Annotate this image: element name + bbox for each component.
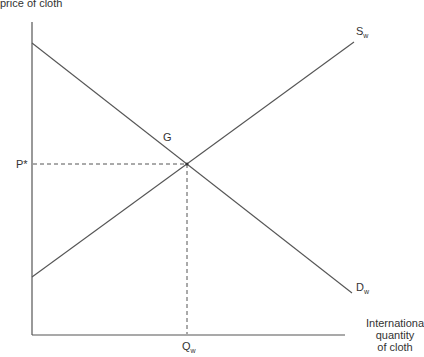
y-axis-label: price of cloth — [0, 0, 62, 9]
price-label: P* — [16, 158, 28, 170]
equilibrium-label: G — [163, 131, 172, 143]
supply-label-sub: w — [363, 32, 368, 39]
supply-curve — [32, 42, 354, 277]
quantity-label: Qw — [182, 340, 196, 357]
supply-demand-diagram — [0, 0, 424, 357]
equilibrium-point — [186, 163, 189, 166]
demand-label-sub: w — [364, 288, 369, 295]
x-axis-label-line-3: of cloth — [366, 341, 424, 353]
demand-curve — [32, 43, 352, 293]
supply-label: Sw — [356, 25, 368, 42]
demand-label: Dw — [356, 281, 369, 298]
quantity-label-main: Q — [182, 340, 191, 352]
x-axis-label-line-1: International — [366, 317, 424, 329]
quantity-label-sub: w — [191, 347, 196, 354]
x-axis-label: International quantity of cloth — [366, 317, 424, 353]
x-axis-label-line-2: quantity — [366, 329, 424, 341]
demand-label-main: D — [356, 281, 364, 293]
